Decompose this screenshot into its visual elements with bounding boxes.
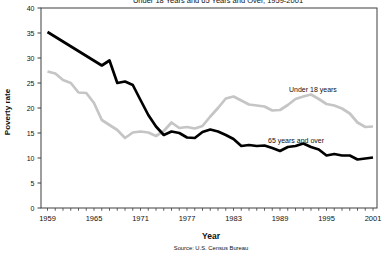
y-tick-label: 5 (31, 180, 35, 187)
x-tick-label: 1983 (225, 214, 242, 223)
y-tick-label: 0 (31, 205, 35, 212)
series-label-under-18-years: Under 18 years (289, 86, 337, 94)
series-labels: Under 18 years65 years and over (268, 86, 337, 145)
series-label-65-years-and-over: 65 years and over (268, 137, 325, 145)
line-65-years-and-over (48, 32, 374, 160)
x-axis: 19591965197119771983198919952001 (39, 208, 381, 223)
x-tick-label: 1995 (318, 214, 335, 223)
x-tick-label: 1977 (179, 214, 196, 223)
chart-canvas: Under 18 Years and 65 Years and Over, 19… (0, 0, 389, 255)
x-tick-label: 1971 (132, 214, 149, 223)
x-tick-label: 1959 (39, 214, 56, 223)
x-axis-title: Year (202, 231, 221, 241)
poverty-rate-chart-figure: Under 18 Years and 65 Years and Over, 19… (0, 0, 389, 255)
y-tick-label: 20 (27, 105, 35, 112)
y-tick-label: 25 (27, 80, 35, 87)
plot-border (41, 8, 377, 208)
y-tick-label: 30 (27, 55, 35, 62)
source-note: Source: U.S. Census Bureau (174, 245, 248, 251)
y-tick-label: 35 (27, 30, 35, 37)
line-under-18-years (48, 72, 374, 139)
data-series (48, 32, 374, 160)
y-axis: 0510152025303540 (27, 5, 41, 212)
x-tick-label: 1989 (272, 214, 289, 223)
y-tick-label: 40 (27, 5, 35, 12)
y-tick-label: 10 (27, 155, 35, 162)
y-tick-label: 15 (27, 130, 35, 137)
x-tick-label: 2001 (365, 214, 382, 223)
y-axis-title: Poverty rate (3, 88, 12, 135)
chart-title-clipped: Under 18 Years and 65 Years and Over, 19… (133, 0, 303, 5)
x-tick-label: 1965 (86, 214, 103, 223)
